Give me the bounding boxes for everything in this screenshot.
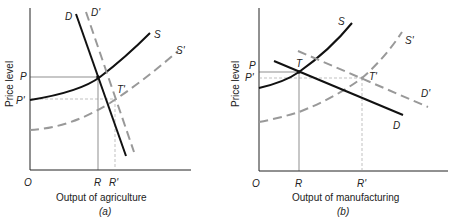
label-r: R — [295, 178, 302, 189]
x-axis-title: Output of agriculture — [56, 192, 147, 203]
label-p-prime: P' — [245, 72, 255, 83]
label-p-prime: P' — [16, 95, 26, 106]
supply-curve-s — [30, 33, 150, 100]
y-axis-title: Price level — [230, 61, 241, 107]
label-t-prime: T' — [369, 71, 378, 82]
label-p: P — [249, 60, 256, 71]
chart-canvas: D D' S S' T' P P' O R R' Output of agric… — [0, 0, 450, 222]
equilibrium-t — [96, 75, 100, 79]
label-s-prime: S' — [405, 35, 415, 46]
label-origin: O — [252, 178, 260, 189]
panel-caption: (a) — [99, 206, 111, 217]
label-origin: O — [24, 177, 32, 188]
x-axis-title: Output of manufacturing — [292, 192, 399, 203]
label-s: S — [338, 16, 345, 27]
label-r-prime: R' — [357, 178, 367, 189]
label-p: P — [20, 71, 27, 82]
label-d: D — [393, 120, 400, 131]
equilibrium-t-prime — [361, 77, 364, 80]
label-r: R — [94, 177, 101, 188]
y-axis-title: Price level — [4, 61, 15, 107]
supply-curve-s-prime — [30, 51, 178, 130]
panel-b: S S' T T' D' D P P' O R R' Output of man… — [230, 8, 448, 217]
label-r-prime: R' — [109, 177, 119, 188]
label-d: D — [65, 11, 72, 22]
panel-a: D D' S S' T' P P' O R R' Output of agric… — [4, 7, 191, 217]
panel-caption: (b) — [337, 206, 349, 217]
label-t: T — [296, 58, 303, 69]
label-t-prime: T' — [117, 84, 126, 95]
label-s-prime: S' — [176, 45, 186, 56]
label-d-prime: D' — [91, 7, 101, 18]
equilibrium-t — [297, 70, 301, 74]
label-d-prime: D' — [421, 88, 431, 99]
label-s: S — [154, 29, 161, 40]
